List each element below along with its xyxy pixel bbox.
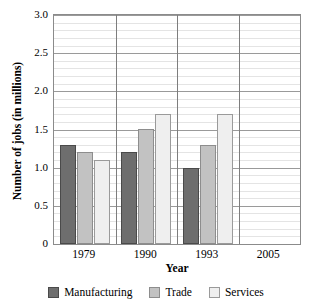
y-axis-tick-label: 0 <box>22 238 48 249</box>
y-axis-tick-labels: 00.51.01.52.02.53.0 <box>18 0 48 303</box>
legend-swatch-icon <box>149 287 160 298</box>
bar-trade-1979 <box>77 152 93 244</box>
bar-trade-1993 <box>200 145 216 244</box>
bar-trade-1990 <box>138 129 154 244</box>
bar-services-1990 <box>155 114 171 244</box>
category-separator <box>239 15 240 244</box>
bar-services-1979 <box>94 160 110 244</box>
y-axis-tick-label: 3.0 <box>22 9 48 20</box>
bar-manufacturing-1979 <box>60 145 76 244</box>
category-separator <box>116 15 117 244</box>
legend-item-label: Trade <box>165 286 191 298</box>
y-axis-tick-label: 1.5 <box>22 124 48 135</box>
y-axis-tick-label: 2.0 <box>22 85 48 96</box>
legend-item-label: Manufacturing <box>64 286 132 298</box>
legend-item-services: Services <box>209 286 264 298</box>
x-axis-tick-label: 2005 <box>238 247 300 261</box>
legend-item-manufacturing: Manufacturing <box>48 286 132 298</box>
x-axis-tick-label: 1979 <box>53 247 115 261</box>
legend-swatch-icon <box>209 287 220 298</box>
bar-services-1993 <box>217 114 233 244</box>
x-axis-tick-label: 1993 <box>176 247 238 261</box>
y-axis-tick-label: 2.5 <box>22 47 48 58</box>
plot-area <box>53 14 301 245</box>
x-axis-tick-label: 1990 <box>115 247 177 261</box>
bar-chart-figure: Number of jobs (in millions) 00.51.01.52… <box>0 0 312 303</box>
legend-item-trade: Trade <box>149 286 191 298</box>
bar-manufacturing-1990 <box>121 152 137 244</box>
legend-swatch-icon <box>48 287 59 298</box>
y-axis-tick-label: 0.5 <box>22 200 48 211</box>
chart-legend: ManufacturingTradeServices <box>0 284 312 300</box>
x-axis-tick-labels: 1979199019932005 <box>53 247 301 263</box>
y-axis-tick-label: 1.0 <box>22 162 48 173</box>
bar-manufacturing-1993 <box>183 168 199 244</box>
x-axis-title: Year <box>53 262 301 274</box>
legend-item-label: Services <box>225 286 264 298</box>
category-separator <box>177 15 178 244</box>
